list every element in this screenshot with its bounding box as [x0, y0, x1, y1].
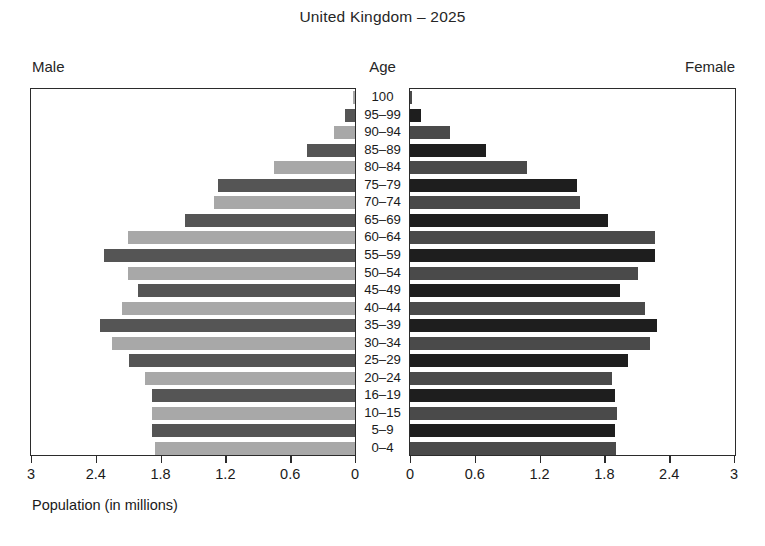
- age-group-label: 10–15: [356, 406, 409, 419]
- female-bar-row: [410, 407, 735, 420]
- male-bar: [345, 109, 355, 122]
- female-bar: [410, 424, 615, 437]
- male-bar-row: [31, 179, 355, 192]
- age-group-label: 35–39: [356, 318, 409, 331]
- female-bar: [410, 196, 580, 209]
- female-bar-row: [410, 231, 735, 244]
- female-bar-row: [410, 442, 735, 455]
- population-pyramid-chart: United Kingdom – 2025 Male Age Female 10…: [0, 0, 765, 546]
- male-bar-row: [31, 354, 355, 367]
- male-bar-row: [31, 319, 355, 332]
- x-axis-tick-right: [604, 456, 605, 463]
- male-bar-row: [31, 267, 355, 280]
- male-bar: [112, 337, 355, 350]
- female-plot-panel: [409, 88, 736, 456]
- female-bar: [410, 126, 450, 139]
- x-axis-tick-left: [161, 456, 162, 463]
- female-bar: [410, 337, 650, 350]
- age-group-label: 85–89: [356, 143, 409, 156]
- male-bar-rows: [31, 89, 355, 455]
- age-group-label: 95–99: [356, 108, 409, 121]
- male-bar-row: [31, 442, 355, 455]
- age-group-label: 80–84: [356, 160, 409, 173]
- female-bar: [410, 319, 657, 332]
- male-bar: [104, 249, 355, 262]
- x-axis-tick-right: [540, 456, 541, 463]
- male-bar-row: [31, 302, 355, 315]
- female-bar-row: [410, 179, 735, 192]
- female-bar: [410, 284, 620, 297]
- male-bar: [152, 389, 355, 402]
- age-group-label: 100: [356, 90, 409, 103]
- male-bar-row: [31, 372, 355, 385]
- male-bar: [214, 196, 355, 209]
- male-bar: [100, 319, 355, 332]
- age-group-label: 60–64: [356, 230, 409, 243]
- female-bar-row: [410, 249, 735, 262]
- female-bar: [410, 161, 527, 174]
- female-bar: [410, 231, 655, 244]
- male-plot-panel: [30, 88, 356, 456]
- male-bar-row: [31, 91, 355, 104]
- female-bar: [410, 109, 421, 122]
- x-axis-tick-left: [96, 456, 97, 463]
- female-bar-row: [410, 267, 735, 280]
- x-axis-tick-label-left: 2.4: [86, 466, 106, 482]
- female-bar: [410, 407, 617, 420]
- male-bar-row: [31, 284, 355, 297]
- male-bar-row: [31, 196, 355, 209]
- age-group-label: 40–44: [356, 301, 409, 314]
- male-bar: [128, 267, 355, 280]
- female-bar-row: [410, 302, 735, 315]
- male-bar-row: [31, 126, 355, 139]
- female-bar-row: [410, 424, 735, 437]
- x-axis-tick-right: [475, 456, 476, 463]
- female-bar-row: [410, 126, 735, 139]
- age-group-label: 90–94: [356, 125, 409, 138]
- female-bar-row: [410, 214, 735, 227]
- age-axis-label: Age: [0, 58, 765, 75]
- female-bar-row: [410, 389, 735, 402]
- female-side-label: Female: [685, 58, 735, 75]
- age-group-label: 0–4: [356, 441, 409, 454]
- male-bar: [334, 126, 355, 139]
- male-bar: [155, 442, 355, 455]
- age-group-label: 45–49: [356, 283, 409, 296]
- x-axis-tick-label-left: 0.6: [280, 466, 300, 482]
- female-bar: [410, 302, 645, 315]
- x-axis-tick-label-left: 3: [27, 466, 35, 482]
- male-bar-row: [31, 407, 355, 420]
- x-axis-caption: Population (in millions): [32, 497, 178, 513]
- female-bar-row: [410, 109, 735, 122]
- female-bar-row: [410, 354, 735, 367]
- x-axis-tick-left: [355, 456, 356, 463]
- male-bar: [128, 231, 355, 244]
- female-bar: [410, 389, 615, 402]
- female-bar-row: [410, 319, 735, 332]
- male-bar-row: [31, 424, 355, 437]
- age-group-label: 65–69: [356, 213, 409, 226]
- male-bar-row: [31, 249, 355, 262]
- male-bar-row: [31, 109, 355, 122]
- male-bar: [353, 91, 355, 104]
- x-axis-tick-label-left: 1.8: [151, 466, 171, 482]
- female-bar-row: [410, 91, 735, 104]
- male-bar: [122, 302, 355, 315]
- x-axis-tick-left: [31, 456, 32, 463]
- male-bar-row: [31, 214, 355, 227]
- male-bar: [129, 354, 355, 367]
- female-bar: [410, 214, 608, 227]
- female-bar: [410, 144, 486, 157]
- male-bar: [138, 284, 355, 297]
- male-bar-row: [31, 389, 355, 402]
- female-bar-row: [410, 284, 735, 297]
- female-bar-row: [410, 144, 735, 157]
- x-axis-tick-label-right: 1.2: [530, 466, 550, 482]
- x-axis-tick-right: [734, 456, 735, 463]
- x-axis-tick-left: [290, 456, 291, 463]
- x-axis-tick-label-left: 0: [351, 466, 359, 482]
- female-bar: [410, 179, 577, 192]
- x-axis-tick-label-right: 0.6: [465, 466, 485, 482]
- age-group-label: 20–24: [356, 371, 409, 384]
- female-bar: [410, 249, 655, 262]
